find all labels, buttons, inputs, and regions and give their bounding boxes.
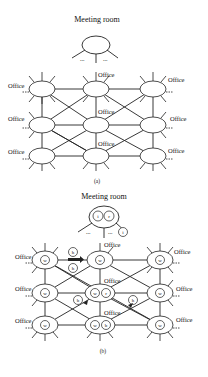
- caption-b: (b): [100, 348, 107, 355]
- office-label: Office: [176, 285, 193, 292]
- office-network-diagram: Meeting room ... ... Office Office Offic…: [0, 0, 208, 377]
- office-label: Office: [176, 316, 193, 323]
- token-label: w: [43, 323, 47, 328]
- office-label: Office: [15, 285, 32, 292]
- dots-a-left: ...: [80, 56, 85, 62]
- token-label: w: [93, 291, 97, 296]
- office-label: Office: [104, 309, 121, 316]
- office-label: Office: [174, 248, 191, 255]
- token-label: w: [158, 258, 162, 263]
- office-label: Office: [168, 76, 185, 83]
- office-label: Office: [15, 317, 32, 324]
- dots-a-right: ...: [103, 56, 108, 62]
- token-label: w: [43, 291, 47, 296]
- office-label: Office: [168, 147, 185, 154]
- office-label: Office: [8, 115, 25, 122]
- token-label: w: [158, 323, 162, 328]
- office-label: Office: [98, 108, 115, 115]
- office-label: Office: [8, 148, 25, 155]
- office-label: Office: [8, 82, 25, 89]
- grid-a: [22, 72, 173, 171]
- office-label: Office: [15, 253, 32, 260]
- meeting-room-label-a: Meeting room: [74, 15, 120, 24]
- office-label: Office: [104, 241, 121, 248]
- token-label: w: [43, 258, 47, 263]
- caption-a: (a): [94, 178, 100, 185]
- token-label: w: [93, 323, 97, 328]
- token-label: w: [98, 258, 102, 263]
- dots-b-left: ...: [86, 229, 91, 235]
- office-label: Office: [98, 140, 115, 147]
- token-label: w: [158, 291, 162, 296]
- office-label: Office: [104, 277, 121, 284]
- office-label: Office: [98, 71, 115, 78]
- office-label: Office: [170, 115, 187, 122]
- meeting-room-label-b: Meeting room: [81, 192, 127, 201]
- dots-b-right: ...: [108, 229, 113, 235]
